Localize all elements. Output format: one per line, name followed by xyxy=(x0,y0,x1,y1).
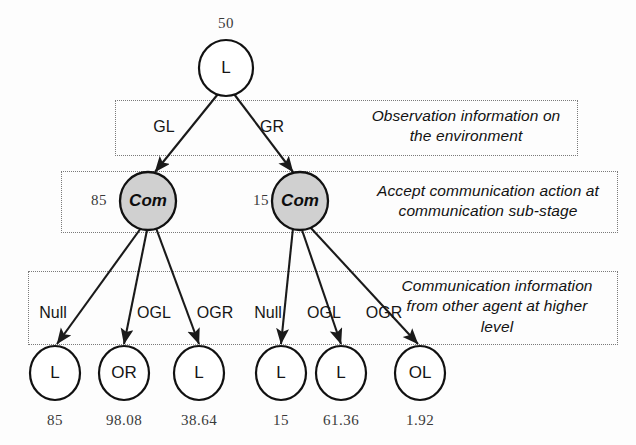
node-leaf-2[interactable]: OR 98.08 xyxy=(99,346,149,428)
node-leaf-6-value: 1.92 xyxy=(406,412,434,428)
node-com-right-value: 15 xyxy=(253,192,269,208)
annotation-communication-action-line1: Accept communication action at xyxy=(362,181,614,201)
edge-label-right-ogl: OGL xyxy=(307,304,341,321)
annotation-communication-info-line2: from other agent at higher xyxy=(380,296,614,316)
node-com-left-value: 85 xyxy=(91,192,107,208)
node-leaf-1-label: L xyxy=(50,363,59,382)
annotation-communication-info-line1: Communication information xyxy=(380,276,614,296)
edge-label-left-ogl: OGL xyxy=(137,304,171,321)
edge-label-gl: GL xyxy=(153,118,174,135)
node-leaf-6[interactable]: OL 1.92 xyxy=(395,346,445,428)
node-leaf-3-value: 38.64 xyxy=(181,412,217,428)
edge-com-right-to-leaf-5 xyxy=(302,230,341,344)
node-leaf-4[interactable]: L 15 xyxy=(256,346,306,428)
annotation-observation-line2: the environment xyxy=(358,126,574,146)
node-com-left[interactable]: Com 85 xyxy=(91,172,176,230)
node-leaf-5-value: 61.36 xyxy=(323,412,359,428)
node-leaf-1-value: 85 xyxy=(47,412,63,428)
annotation-observation: Observation information on the environme… xyxy=(358,106,574,147)
node-leaf-6-label: OL xyxy=(409,363,432,382)
node-leaf-4-value: 15 xyxy=(273,412,289,428)
node-com-right[interactable]: Com 15 xyxy=(253,172,328,230)
node-leaf-3-label: L xyxy=(194,363,203,382)
tree-graph: L 50 Com 85 Com 15 L 85 OR 98.08 L xyxy=(0,0,636,445)
node-leaf-4-label: L xyxy=(276,363,285,382)
annotation-communication-action-line2: communication sub-stage xyxy=(362,201,614,221)
node-leaf-1[interactable]: L 85 xyxy=(30,346,80,428)
edge-com-left-to-leaf-3 xyxy=(156,228,199,344)
node-leaf-5-label: L xyxy=(336,363,345,382)
edge-label-gr: GR xyxy=(260,118,284,135)
node-leaf-3[interactable]: L 38.64 xyxy=(174,346,224,428)
node-leaf-2-label: OR xyxy=(111,363,137,382)
node-leaf-5[interactable]: L 61.36 xyxy=(316,346,366,428)
annotation-communication-info: Communication information from other age… xyxy=(380,276,614,337)
node-leaf-2-value: 98.08 xyxy=(106,412,142,428)
figure-canvas: L 50 Com 85 Com 15 L 85 OR 98.08 L xyxy=(0,0,636,445)
edge-com-right-to-leaf-4 xyxy=(281,228,293,344)
node-root[interactable]: L 50 xyxy=(199,15,253,96)
edge-label-left-null: Null xyxy=(39,304,67,321)
node-root-value: 50 xyxy=(218,15,234,31)
node-com-left-label: Com xyxy=(129,191,167,210)
annotation-communication-action: Accept communication action at communica… xyxy=(362,181,614,222)
edge-group-level2-left xyxy=(57,228,199,344)
edge-label-left-ogr: OGR xyxy=(197,304,233,321)
node-com-right-label: Com xyxy=(281,191,319,210)
node-root-label: L xyxy=(221,58,230,77)
annotation-observation-line1: Observation information on xyxy=(358,106,574,126)
annotation-communication-info-line3: level xyxy=(380,317,614,337)
edge-label-right-null: Null xyxy=(254,304,282,321)
